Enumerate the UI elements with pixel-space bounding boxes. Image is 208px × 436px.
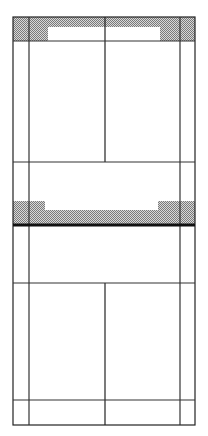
mid-band <box>13 201 195 225</box>
mid-band-recess <box>45 201 158 210</box>
diagram-canvas <box>0 0 208 436</box>
elevation-drawing <box>0 0 208 436</box>
top-band-inset <box>48 27 160 41</box>
top-band <box>13 17 195 41</box>
